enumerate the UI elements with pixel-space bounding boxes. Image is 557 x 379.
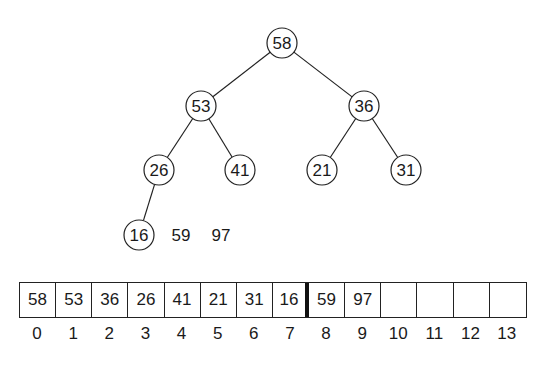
array-cell: 97 bbox=[345, 283, 381, 317]
svg-text:26: 26 bbox=[150, 161, 169, 180]
array-index: 6 bbox=[236, 324, 272, 344]
removed-value: 97 bbox=[212, 226, 231, 245]
array-cell: 59 bbox=[309, 283, 345, 317]
svg-text:16: 16 bbox=[130, 226, 149, 245]
tree-edge bbox=[209, 119, 232, 157]
tree-node: 16 bbox=[124, 220, 154, 250]
array-cell bbox=[381, 283, 417, 317]
array-index: 5 bbox=[200, 324, 236, 344]
array-index: 8 bbox=[308, 324, 344, 344]
array-cell: 53 bbox=[56, 283, 92, 317]
svg-text:31: 31 bbox=[397, 161, 416, 180]
tree-node: 21 bbox=[307, 155, 337, 185]
array-cell: 31 bbox=[237, 283, 273, 317]
svg-text:21: 21 bbox=[313, 161, 332, 180]
array-cell: 21 bbox=[201, 283, 237, 317]
array-index: 1 bbox=[55, 324, 91, 344]
heap-array: 58533626412131165997 bbox=[19, 282, 527, 318]
array-index: 7 bbox=[272, 324, 308, 344]
tree-node: 53 bbox=[186, 91, 216, 121]
tree-edge bbox=[330, 119, 356, 158]
array-cell: 16 bbox=[273, 283, 309, 317]
tree-node: 58 bbox=[267, 28, 297, 58]
array-cell: 41 bbox=[165, 283, 201, 317]
removed-value: 59 bbox=[172, 226, 191, 245]
array-index: 0 bbox=[19, 324, 55, 344]
array-index: 13 bbox=[489, 324, 525, 344]
array-cell: 58 bbox=[20, 283, 56, 317]
heap-tree: 5853362641213116 5997 bbox=[0, 0, 557, 379]
array-index: 9 bbox=[344, 324, 380, 344]
array-cell bbox=[454, 283, 490, 317]
tree-edge bbox=[213, 52, 270, 97]
array-cell: 36 bbox=[92, 283, 128, 317]
tree-node: 36 bbox=[349, 91, 379, 121]
tree-node: 31 bbox=[391, 155, 421, 185]
array-indices: 012345678910111213 bbox=[19, 324, 525, 344]
tree-node: 41 bbox=[225, 155, 255, 185]
tree-edge bbox=[167, 119, 193, 158]
array-cell bbox=[490, 283, 526, 317]
array-cell: 26 bbox=[128, 283, 164, 317]
array-index: 3 bbox=[127, 324, 163, 344]
tree-node: 26 bbox=[144, 155, 174, 185]
array-index: 10 bbox=[380, 324, 416, 344]
svg-text:53: 53 bbox=[192, 97, 211, 116]
array-index: 4 bbox=[164, 324, 200, 344]
array-index: 11 bbox=[416, 324, 452, 344]
tree-edge bbox=[143, 184, 154, 220]
array-index: 2 bbox=[91, 324, 127, 344]
array-cell bbox=[417, 283, 453, 317]
tree-edge bbox=[372, 119, 398, 158]
svg-text:41: 41 bbox=[231, 161, 250, 180]
svg-text:36: 36 bbox=[355, 97, 374, 116]
array-index: 12 bbox=[453, 324, 489, 344]
svg-text:58: 58 bbox=[273, 34, 292, 53]
tree-edge bbox=[294, 52, 352, 97]
